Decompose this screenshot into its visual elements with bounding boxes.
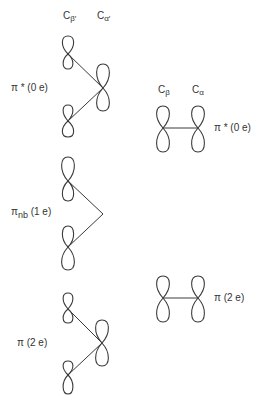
ethylene-pi-star-orbital-group [157, 106, 205, 152]
allyl-pi-orbital-group [63, 293, 108, 394]
atom-subscript: α′ [104, 14, 110, 23]
allyl-pi-star-orbital-group [62, 36, 109, 137]
atom-subscript: α [199, 88, 204, 97]
atom-label-c-alpha: Cα [192, 84, 204, 97]
atom-label-c-alpha-prime: Cα′ [97, 10, 110, 23]
atom-subscript: β′ [70, 14, 76, 23]
atom-subscript: β [165, 88, 170, 97]
allyl-pi-nb-label: πnb (1 e) [11, 206, 51, 220]
ethylene-pi-star-label: π * (0 e) [214, 122, 251, 133]
allyl-pi-label: π (2 e) [17, 337, 47, 348]
ethylene-pi-orbital-group [157, 276, 205, 322]
allyl-pi-nb-orbital-group [62, 157, 103, 270]
atom-label-c-beta: Cβ [158, 84, 170, 97]
label-main: π [11, 206, 18, 217]
ethylene-pi-label: π (2 e) [214, 292, 244, 303]
label-subscript: nb [18, 210, 28, 220]
atom-label-c-beta-prime: Cβ′ [63, 10, 76, 23]
allyl-pi-star-label: π * (0 e) [11, 82, 48, 93]
label-tail: (1 e) [28, 206, 51, 217]
